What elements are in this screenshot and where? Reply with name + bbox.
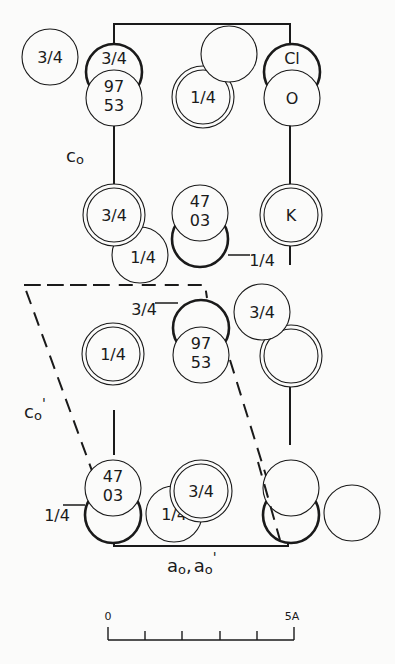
atom-a4 [201,26,257,82]
atom-label: 1/4 [190,88,216,107]
atom-a3: 97 53 [86,70,142,126]
atom-a18: 47 03 [85,460,141,516]
atom-label: 3/4 [188,482,214,501]
atom-label-top: 97 [191,334,211,353]
atom-label: 3/4 [101,206,127,225]
atom-a17-double: 1/4 [82,323,144,385]
atom-label-bottom: 03 [103,486,123,505]
cl-label: Cl [284,49,300,68]
atom-a20-double: 3/4 [170,460,232,522]
atom-label-top: 97 [104,77,124,96]
atom-a9: 47 03 [172,185,228,241]
atom-label-bottom: 53 [104,96,124,115]
atom-label: 1/4 [130,248,156,267]
atom-label-top: 47 [190,192,210,211]
atom-label: 3/4 [101,49,127,68]
atom-a15: 3/4 [234,284,290,340]
atom-a7-o: O [264,70,320,126]
atom-label-bottom: 03 [190,211,210,230]
o-label: O [286,89,299,108]
atom-a1: 3/4 [22,29,78,85]
atom-label: 3/4 [249,303,275,322]
atom-a8-double: 3/4 [83,184,145,246]
atom-label: 3/4 [37,48,63,67]
atom-label-bottom: 53 [191,353,211,372]
scale-end-label: 5A [285,610,300,623]
leader-label: 1/4 [44,506,70,525]
scale-start-label: 0 [105,610,112,623]
atom-a24 [324,485,380,541]
axis-label-c0-prime: co' [24,395,46,423]
leader-label: 1/4 [249,251,275,270]
axis-label-a0: ao,ao' [167,549,217,577]
axis-label-c0: co [66,145,84,167]
crystal-structure-diagram: 3/4 3/4 97 53 1/4 Cl O co 1/4 3/4 [0,0,395,664]
atom-label-top: 47 [103,467,123,486]
atom-a10-k-double: K [260,184,322,246]
atom-label: 1/4 [100,345,126,364]
k-label: K [286,206,297,225]
leader-label: 3/4 [131,300,157,319]
scale-bar: 0 5A [105,610,300,640]
atom-a14: 97 53 [173,327,229,383]
